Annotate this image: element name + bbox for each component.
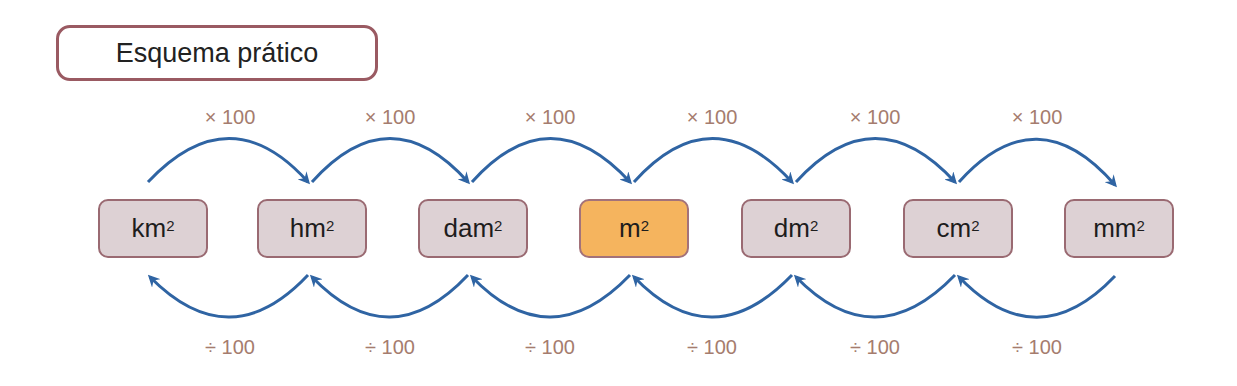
divide-arrow-icon xyxy=(634,275,792,317)
unit-exponent: 2 xyxy=(810,217,818,234)
unit-base: dam xyxy=(444,213,495,244)
unit-dam2: dam2 xyxy=(418,199,528,258)
divide-label: ÷ 100 xyxy=(667,336,757,359)
divide-label: ÷ 100 xyxy=(830,336,920,359)
unit-exponent: 2 xyxy=(1136,217,1144,234)
divide-arrow-icon xyxy=(312,275,468,317)
multiply-arrow-icon xyxy=(472,139,630,183)
unit-exponent: 2 xyxy=(326,217,334,234)
multiply-arrow-icon xyxy=(312,139,468,183)
divide-label: ÷ 100 xyxy=(505,336,595,359)
unit-exponent: 2 xyxy=(641,217,649,234)
divide-label: ÷ 100 xyxy=(345,336,435,359)
divide-arrow-icon xyxy=(959,276,1115,317)
unit-km2: km2 xyxy=(98,199,208,258)
multiply-arrow-icon xyxy=(148,139,308,183)
multiply-arrow-icon xyxy=(796,139,955,183)
unit-base: km xyxy=(131,213,166,244)
divide-arrow-icon xyxy=(472,275,630,317)
unit-exponent: 2 xyxy=(971,217,979,234)
unit-hm2: hm2 xyxy=(257,199,367,258)
unit-base: dm xyxy=(774,213,810,244)
unit-exponent: 2 xyxy=(494,217,502,234)
unit-base: cm xyxy=(936,213,971,244)
unit-m2-highlighted: m2 xyxy=(579,199,689,258)
divide-label: ÷ 100 xyxy=(185,336,275,359)
multiply-label: × 100 xyxy=(667,106,757,129)
unit-mm2: mm2 xyxy=(1064,199,1174,258)
multiply-label: × 100 xyxy=(185,106,275,129)
divide-label: ÷ 100 xyxy=(992,336,1082,359)
multiply-label: × 100 xyxy=(505,106,595,129)
multiply-arrow-icon xyxy=(634,139,792,183)
unit-dm2: dm2 xyxy=(741,199,851,258)
multiply-arrow-icon xyxy=(959,139,1115,185)
divide-arrow-icon xyxy=(796,275,955,317)
unit-cm2: cm2 xyxy=(903,199,1013,258)
multiply-label: × 100 xyxy=(345,106,435,129)
unit-exponent: 2 xyxy=(166,217,174,234)
unit-base: hm xyxy=(290,213,326,244)
conversion-arrows xyxy=(0,0,1237,386)
divide-arrow-icon xyxy=(150,275,308,317)
multiply-label: × 100 xyxy=(830,106,920,129)
unit-base: mm xyxy=(1093,213,1136,244)
multiply-label: × 100 xyxy=(992,106,1082,129)
unit-base: m xyxy=(619,213,641,244)
